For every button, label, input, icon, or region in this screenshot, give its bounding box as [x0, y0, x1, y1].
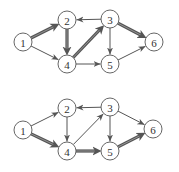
edge-4-to-3: [73, 114, 103, 145]
node-1: 1: [14, 33, 32, 51]
node-1: 1: [14, 121, 32, 139]
node-label: 4: [64, 146, 70, 158]
node-label: 5: [107, 59, 113, 71]
node-3: 3: [101, 98, 119, 116]
node-5: 5: [101, 55, 119, 73]
edge-5-to-6: [118, 46, 145, 60]
node-5: 5: [101, 142, 119, 160]
node-label: 4: [64, 59, 70, 71]
graph-diagram: 123456 123456: [0, 0, 179, 172]
node-label: 2: [64, 15, 70, 27]
arrowhead-icon: [143, 36, 146, 37]
node-label: 2: [64, 103, 70, 115]
edge-3-to-2: [76, 107, 101, 108]
node-6: 6: [145, 33, 163, 51]
edge-1-to-4: [31, 46, 58, 60]
node-4: 4: [58, 142, 76, 160]
node-label: 5: [107, 146, 113, 158]
edge-1-to-2: [31, 112, 58, 126]
arrowhead-icon: [56, 24, 59, 25]
node-2: 2: [58, 99, 76, 117]
node-4: 4: [58, 55, 76, 73]
graph-top: 123456: [14, 10, 163, 73]
edge-4-to-3-highlighted: [73, 26, 103, 58]
edge-1-to-4-highlighted: [31, 134, 58, 147]
node-label: 6: [151, 37, 157, 49]
node-3: 3: [101, 10, 119, 28]
node-2: 2: [58, 11, 76, 29]
arrowhead-icon: [56, 146, 59, 147]
node-label: 1: [20, 125, 26, 137]
edges: [31, 107, 144, 151]
node-label: 1: [20, 37, 26, 49]
node-label: 6: [150, 124, 156, 136]
edges: [31, 19, 146, 64]
edge-3-to-2: [76, 19, 101, 20]
node-label: 3: [107, 14, 113, 26]
node-6: 6: [144, 120, 162, 138]
edge-3-to-6-highlighted: [118, 23, 146, 37]
graph-bottom: 123456: [14, 98, 162, 160]
node-label: 3: [107, 102, 113, 114]
edge-5-to-6-highlighted: [118, 133, 145, 147]
edge-3-to-6: [118, 111, 145, 125]
arrowhead-icon: [142, 133, 145, 134]
arrowhead-icon: [101, 26, 103, 28]
edge-1-to-2-highlighted: [31, 24, 58, 38]
